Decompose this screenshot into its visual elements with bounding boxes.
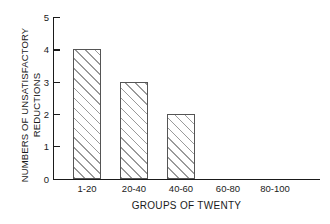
y-tick-mark (54, 17, 60, 18)
y-tick-mark (54, 82, 60, 83)
y-tick-mark (54, 179, 60, 180)
y-tick-mark (54, 49, 60, 50)
y-axis-title-line-2: REDUCTIONS (31, 73, 43, 137)
bar-chart: NUMBERS OF UNSATISFACTORY REDUCTIONS 0 1… (0, 0, 330, 224)
x-tick-label-60-80: 60-80 (216, 183, 240, 194)
x-axis-title: GROUPS OF TWENTY (53, 200, 320, 211)
y-tick-label: 2 (44, 108, 49, 119)
y-axis-title-line-1: NUMBERS OF UNSATISFACTORY (19, 28, 31, 183)
y-tick-label: 5 (44, 12, 49, 23)
y-axis-line (53, 17, 54, 180)
y-tick-mark (54, 146, 60, 147)
bar-1-20 (73, 49, 101, 178)
y-tick-label: 1 (44, 141, 49, 152)
x-tick-label-20-40: 20-40 (122, 183, 146, 194)
x-tick-label-1-20: 1-20 (77, 183, 96, 194)
plot-area: 0 1 2 3 4 5 1-20 20-40 40-60 60- (53, 17, 320, 180)
y-tick-label: 0 (44, 173, 49, 184)
bar-20-40 (120, 82, 148, 179)
y-axis-title: NUMBERS OF UNSATISFACTORY REDUCTIONS (14, 11, 48, 199)
y-tick-label: 3 (44, 76, 49, 87)
x-axis-line (53, 179, 320, 180)
y-tick-label: 4 (44, 44, 49, 55)
x-tick-label-40-60: 40-60 (169, 183, 193, 194)
x-tick-label-80-100: 80-100 (260, 183, 290, 194)
y-tick-mark (54, 114, 60, 115)
bar-40-60 (167, 114, 195, 179)
